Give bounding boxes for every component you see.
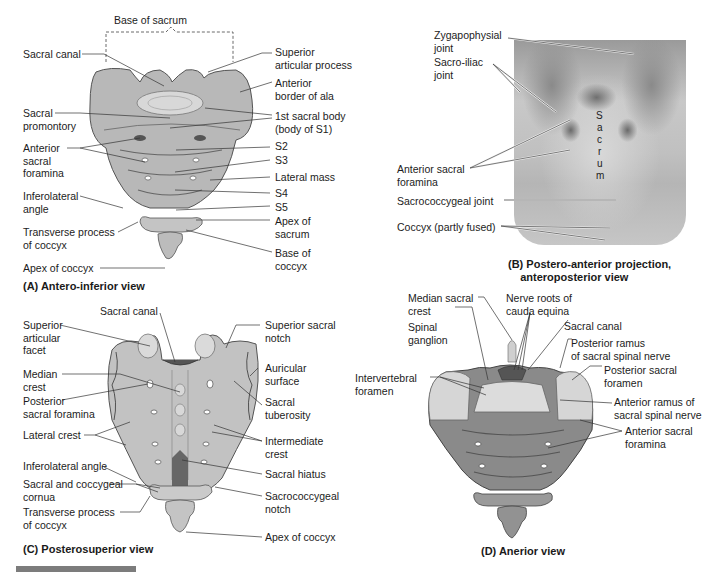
figure-caption-fragment — [16, 566, 136, 572]
label-posterior-ramus: Posterior ramus of sacral spinal nerve — [571, 337, 670, 362]
label-spinal-ganglion: Spinal ganglion — [408, 321, 448, 346]
label-intervertebral-foramen: Intervertebral foramen — [355, 372, 417, 397]
caption-d: (D) Anerior view — [481, 545, 565, 558]
label-anterior-sacral-foramina-d: Anterior sacral foramina — [625, 425, 693, 450]
label-median-sacral-crest: Median sacral crest — [408, 292, 473, 317]
label-nerve-roots-cauda-equina: Nerve roots of cauda equina — [506, 292, 572, 317]
label-sacral-canal-d: Sacral canal — [564, 320, 622, 333]
label-posterior-sacral-foramen: Posterior sacral foramen — [604, 364, 677, 389]
panel-d-illustration — [0, 0, 717, 573]
label-anterior-ramus: Anterior ramus of sacral spinal nerve — [614, 396, 702, 421]
